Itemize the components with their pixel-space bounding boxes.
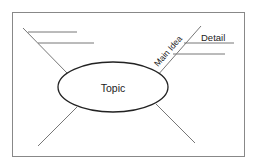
- topic-node: Topic: [58, 62, 168, 112]
- detail-label: Detail: [201, 32, 225, 43]
- topic-label: Topic: [101, 82, 126, 94]
- mind-map-diagram: Main Idea Detail Topic: [0, 0, 256, 163]
